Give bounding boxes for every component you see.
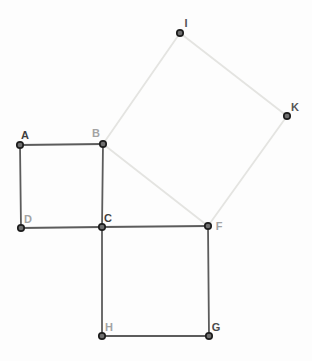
segment-FB[interactable]	[103, 144, 208, 226]
point-label-G: G	[212, 321, 221, 333]
point-F[interactable]	[205, 223, 211, 229]
point-label-A: A	[21, 129, 29, 141]
point-C[interactable]	[99, 224, 105, 230]
segment-DA[interactable]	[20, 145, 21, 228]
point-label-I: I	[184, 17, 187, 29]
point-K[interactable]	[284, 113, 290, 119]
point-B[interactable]	[100, 141, 106, 147]
point-label-K: K	[291, 101, 299, 113]
segment-CF[interactable]	[102, 226, 208, 227]
point-label-H: H	[105, 321, 113, 333]
geometry-canvas[interactable]: ABCDFGHIK	[0, 0, 312, 361]
segment-FG[interactable]	[208, 226, 209, 336]
point-label-C: C	[104, 212, 112, 224]
point-H[interactable]	[99, 333, 105, 339]
segment-IK[interactable]	[180, 33, 287, 116]
segment-BI[interactable]	[103, 33, 180, 144]
point-label-B: B	[92, 127, 100, 139]
point-I[interactable]	[177, 30, 183, 36]
point-label-D: D	[24, 213, 32, 225]
point-G[interactable]	[206, 333, 212, 339]
point-A[interactable]	[17, 142, 23, 148]
point-label-F: F	[216, 220, 223, 232]
geometry-view: ABCDFGHIK	[0, 0, 312, 361]
segment-KF[interactable]	[208, 116, 287, 226]
segment-AB[interactable]	[20, 144, 103, 145]
segment-BC[interactable]	[102, 144, 103, 227]
segment-CD[interactable]	[21, 227, 102, 228]
point-D[interactable]	[18, 225, 24, 231]
